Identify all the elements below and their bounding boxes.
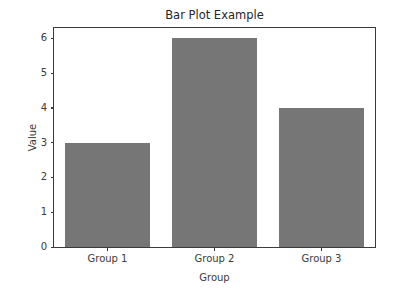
x-tick-label: Group 2: [155, 252, 275, 266]
y-tick-mark: [51, 212, 55, 213]
plot-axes: 0123456Group 1Group 2Group 3: [53, 27, 376, 248]
chart-title: Bar Plot Example: [53, 8, 376, 22]
x-axis-label: Group: [53, 271, 376, 284]
y-tick-label: 2: [41, 170, 47, 184]
bar: [279, 108, 365, 247]
y-tick-mark: [51, 142, 55, 143]
y-tick-mark: [51, 107, 55, 108]
y-tick-label: 4: [41, 101, 47, 115]
y-tick-mark: [51, 73, 55, 74]
x-tick-label: Group 3: [262, 252, 382, 266]
x-tick-mark: [214, 247, 215, 251]
y-axis-label: Value: [27, 27, 38, 248]
y-tick-label: 3: [41, 136, 47, 150]
y-tick-label: 0: [41, 240, 47, 254]
bar: [172, 38, 258, 247]
y-tick-mark: [51, 247, 55, 248]
y-tick-mark: [51, 177, 55, 178]
y-tick-label: 6: [41, 31, 47, 45]
x-tick-label: Group 1: [48, 252, 168, 266]
y-tick-label: 5: [41, 66, 47, 80]
y-tick-mark: [51, 38, 55, 39]
x-tick-mark: [107, 247, 108, 251]
y-tick-label: 1: [41, 205, 47, 219]
x-tick-mark: [321, 247, 322, 251]
plot-area: [54, 28, 375, 247]
bar-chart-figure: Bar Plot Example 0123456Group 1Group 2Gr…: [0, 0, 397, 295]
bar: [65, 143, 151, 247]
